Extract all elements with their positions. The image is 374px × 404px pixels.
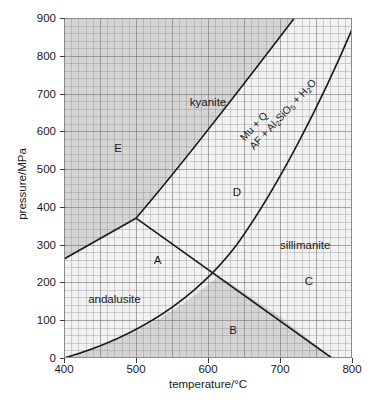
x-axis-title: temperature/°C xyxy=(64,378,352,390)
y-tick-mark xyxy=(60,320,65,321)
y-tick-label-100: 100 xyxy=(0,314,56,326)
y-tick-label-500: 500 xyxy=(0,163,56,175)
region-label-d: D xyxy=(233,186,241,198)
y-tick-label-600: 600 xyxy=(0,125,56,137)
y-tick-mark xyxy=(60,245,65,246)
y-tick-mark xyxy=(60,56,65,57)
phase-label-andalusite: andalusite xyxy=(88,293,140,305)
y-tick-mark xyxy=(60,131,65,132)
region-label-a: A xyxy=(154,254,162,266)
y-tick-label-900: 900 xyxy=(0,12,56,24)
y-tick-mark xyxy=(60,207,65,208)
y-tick-label-300: 300 xyxy=(0,239,56,251)
region-label-e: E xyxy=(114,142,122,154)
x-tick-label-500: 500 xyxy=(116,363,156,375)
y-tick-mark xyxy=(60,169,65,170)
y-tick-label-200: 200 xyxy=(0,276,56,288)
x-tick-mark xyxy=(280,358,281,363)
x-tick-label-800: 800 xyxy=(332,363,372,375)
x-tick-mark xyxy=(136,358,137,363)
x-tick-mark xyxy=(64,358,65,363)
y-axis-title: pressure/MPa xyxy=(16,124,28,244)
x-tick-label-400: 400 xyxy=(44,363,84,375)
x-tick-label-700: 700 xyxy=(260,363,300,375)
y-tick-label-800: 800 xyxy=(0,50,56,62)
y-tick-mark xyxy=(60,18,65,19)
curve-kyanite-andalusite xyxy=(64,218,136,259)
region-label-c: C xyxy=(305,275,313,287)
y-tick-label-700: 700 xyxy=(0,88,56,100)
phase-diagram-figure: kyanite andalusite sillimanite A B C D E… xyxy=(0,0,374,404)
x-tick-mark xyxy=(208,358,209,363)
plot-svg-curves xyxy=(64,18,352,358)
phase-label-kyanite: kyanite xyxy=(190,96,226,108)
plot-area: kyanite andalusite sillimanite A B C D E… xyxy=(64,18,352,358)
y-tick-label-400: 400 xyxy=(0,201,56,213)
phase-label-sillimanite: sillimanite xyxy=(280,239,331,251)
y-tick-mark xyxy=(60,94,65,95)
y-tick-mark xyxy=(60,282,65,283)
x-tick-mark xyxy=(352,358,353,363)
region-label-b: B xyxy=(229,324,237,336)
x-tick-label-600: 600 xyxy=(188,363,228,375)
